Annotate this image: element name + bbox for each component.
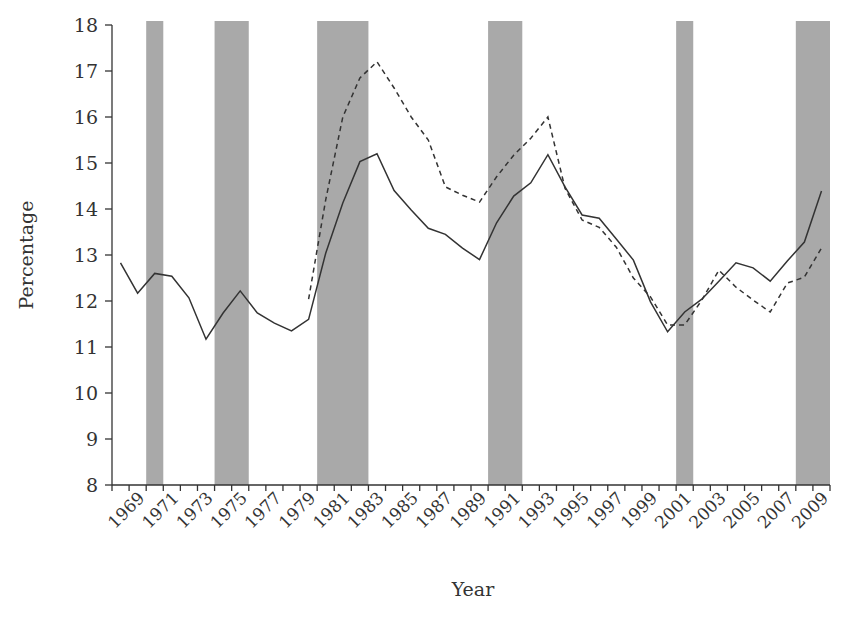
x-tick-label: 1979 [275, 488, 320, 533]
recession-bar [215, 21, 249, 485]
x-tick-label: 1975 [206, 488, 251, 533]
y-tick-label: 15 [74, 152, 98, 174]
recession-bars [146, 21, 830, 485]
x-axis-title: Year [451, 578, 495, 600]
x-tick-label: 1981 [309, 488, 354, 533]
line-chart: 89101112131415161718 1969197119731975197… [0, 0, 846, 628]
y-tick-label: 16 [74, 106, 98, 128]
x-tick-label: 1973 [172, 488, 217, 533]
recession-bar [146, 21, 163, 485]
y-tick-label: 11 [74, 336, 98, 358]
x-tick-label: 1989 [446, 488, 491, 533]
x-tick-label: 1991 [480, 488, 525, 533]
y-axis-title: Percentage [15, 201, 37, 310]
x-tick-label: 2001 [651, 488, 696, 533]
y-tick-label: 13 [74, 244, 98, 266]
x-tick-label: 1985 [377, 488, 422, 533]
x-tick-label: 1995 [548, 488, 593, 533]
recession-bar [488, 21, 522, 485]
recession-bar [676, 21, 693, 485]
x-tick-label: 1971 [138, 488, 183, 533]
x-tick-label: 1969 [104, 488, 149, 533]
x-axis-ticks: 1969197119731975197719791981198319851987… [104, 485, 833, 532]
x-tick-label: 1983 [343, 488, 388, 533]
x-tick-label: 1987 [411, 488, 456, 533]
recession-bar [796, 21, 830, 485]
y-tick-label: 8 [86, 474, 98, 496]
x-tick-label: 1997 [582, 488, 627, 533]
dashed-series-line [309, 62, 822, 325]
y-axis-ticks: 89101112131415161718 [74, 14, 112, 496]
y-tick-label: 17 [74, 60, 98, 82]
y-tick-label: 14 [74, 198, 98, 220]
y-tick-label: 18 [74, 14, 98, 36]
x-tick-label: 1977 [240, 488, 285, 533]
y-tick-label: 9 [86, 428, 98, 450]
x-tick-label: 2009 [788, 488, 833, 533]
x-tick-label: 2007 [753, 488, 798, 533]
recession-bar [317, 21, 368, 485]
y-tick-label: 10 [74, 382, 98, 404]
x-tick-label: 1993 [514, 488, 559, 533]
x-tick-label: 2003 [685, 488, 730, 533]
x-tick-label: 2005 [719, 488, 764, 533]
y-tick-label: 12 [74, 290, 98, 312]
x-tick-label: 1999 [617, 488, 662, 533]
